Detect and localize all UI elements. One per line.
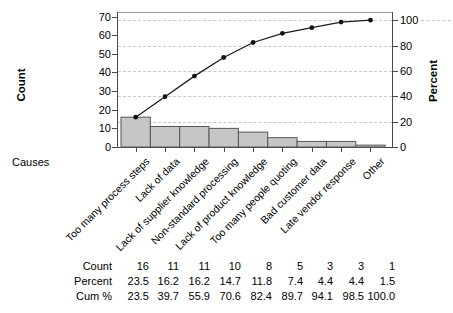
table-cell: 1.5 <box>355 274 395 288</box>
table-row-label: Count <box>58 259 112 273</box>
table-cell: 100.0 <box>355 289 395 303</box>
table-row-label: Percent <box>58 274 112 288</box>
pareto-chart: Count Percent Causes 0102030405060700204… <box>0 0 453 313</box>
table-cell: 1 <box>355 259 395 273</box>
summary-table: Count1611111085331Percent23.516.216.214.… <box>0 0 453 313</box>
table-row-label: Cum % <box>58 289 112 303</box>
